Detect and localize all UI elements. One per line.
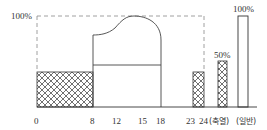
bar-general-label: 100% <box>233 4 255 14</box>
x-tick-18: 18 <box>156 116 166 126</box>
load-profile-chart: 100% 0 8 12 15 18 23 24 (축열) (일반) 50% 10… <box>0 0 267 130</box>
bar-storage-label: 50% <box>214 50 231 60</box>
reference-lines <box>37 16 204 72</box>
daytime-profile-outline <box>93 16 161 107</box>
x-tick-15: 15 <box>138 116 148 126</box>
x-cat-storage: (축열) <box>209 117 229 126</box>
hatched-region-23-24 <box>193 72 204 107</box>
hatched-region-0-8 <box>37 72 93 107</box>
bar-storage <box>218 61 227 107</box>
bar-general <box>238 16 248 107</box>
x-cat-general: (일반) <box>236 117 256 126</box>
x-tick-24: 24 <box>199 116 209 126</box>
x-tick-0: 0 <box>34 116 39 126</box>
x-tick-12: 12 <box>112 116 121 126</box>
x-tick-8: 8 <box>90 116 95 126</box>
y-label-100: 100% <box>11 11 33 21</box>
x-tick-23: 23 <box>186 116 196 126</box>
